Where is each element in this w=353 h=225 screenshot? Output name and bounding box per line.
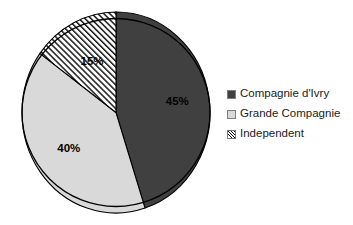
legend-item-grande-compagnie[interactable]: Grande Compagnie bbox=[227, 104, 351, 124]
legend-label-compagnie-divry: Compagnie d'Ivry bbox=[240, 88, 329, 100]
chart-legend: Compagnie d'Ivry Grande Compagnie Indepe… bbox=[227, 84, 351, 144]
legend-swatch-icon-independent bbox=[227, 130, 236, 139]
slice-value-label-grande-compagnie: 40% bbox=[57, 142, 80, 154]
legend-swatch-icon-grande-compagnie bbox=[227, 110, 236, 119]
legend-item-independent[interactable]: Independent bbox=[227, 124, 351, 144]
slice-value-label-independent: 15% bbox=[81, 55, 104, 67]
pie-chart: 45% 40% 15% Compagnie d'Ivry Grande Comp… bbox=[0, 0, 353, 225]
legend-label-independent: Independent bbox=[240, 128, 304, 140]
legend-item-compagnie-divry[interactable]: Compagnie d'Ivry bbox=[227, 84, 351, 104]
legend-label-grande-compagnie: Grande Compagnie bbox=[240, 108, 340, 120]
legend-swatch-icon-compagnie-divry bbox=[227, 90, 236, 99]
slice-value-label-compagnie-divry: 45% bbox=[166, 95, 189, 107]
